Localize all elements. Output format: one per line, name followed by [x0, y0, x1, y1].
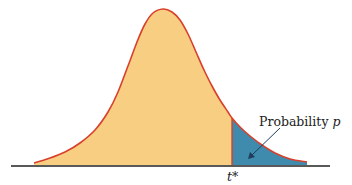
t-star-label: t* [227, 169, 239, 184]
density-chart: Probability p t* [0, 0, 352, 185]
density-body-area [34, 9, 232, 165]
tail-probability-label: Probability p [259, 114, 340, 129]
